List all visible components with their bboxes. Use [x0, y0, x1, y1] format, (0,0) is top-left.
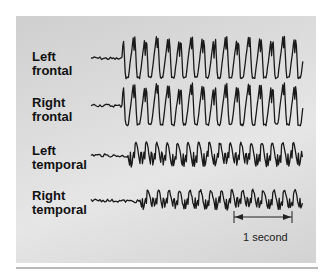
scale-bar [234, 211, 292, 223]
eeg-trace-left-frontal [91, 36, 303, 78]
scale-bar-label: 1 second [243, 231, 288, 243]
arrow-left-icon [235, 214, 243, 220]
eeg-trace-right-temporal [91, 189, 302, 210]
eeg-trace-group [91, 36, 303, 210]
bottom-divider [16, 267, 318, 269]
arrow-right-icon [283, 214, 291, 220]
eeg-trace-left-temporal [91, 142, 302, 167]
eeg-trace-right-frontal [91, 83, 303, 126]
